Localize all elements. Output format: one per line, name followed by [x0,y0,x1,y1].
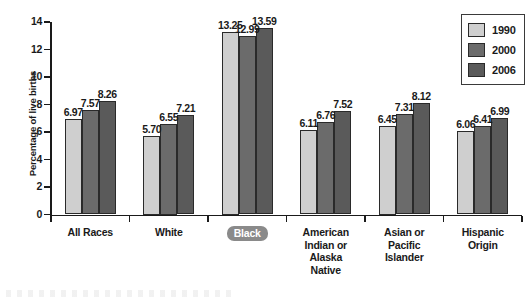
y-axis-line [50,22,52,216]
bar-2006-all-races [99,101,116,215]
legend-swatch [468,23,485,37]
category-label-line: Asian or [365,226,444,239]
category-label-all-races: All Races [51,226,130,239]
category-label-line: All Races [51,226,130,239]
y-axis-tick-label: 0 [20,208,42,220]
page-artifact-strip [6,290,236,297]
legend-item-2000: 2000 [468,41,516,58]
bar-2006-white [177,115,194,214]
bar-2006-american-indian-or-alaska-native [334,111,351,214]
bar-1990-american-indian-or-alaska-native [300,130,317,214]
y-axis-tick-label: 2 [20,180,42,192]
category-label-line: American [287,226,366,239]
y-axis-tick-label: 10 [20,70,42,82]
category-label-hispanic-origin: HispanicOrigin [444,226,523,251]
bar-value-label: 8.12 [406,90,436,102]
category-label-line: Black [227,226,268,241]
y-axis-tick [44,214,50,215]
y-axis-tick [44,76,50,77]
category-label-black: Black [208,226,287,241]
bar-2006-black [256,28,273,215]
category-label-line: Origin [444,239,523,252]
bar-2000-hispanic-origin [474,126,491,214]
x-axis-tick [521,216,522,222]
bar-value-label: 13.59 [249,15,279,27]
category-label-white: White [130,226,209,239]
bar-2000-american-indian-or-alaska-native [317,122,334,215]
legend-label: 2006 [492,64,516,76]
legend-label: 2000 [492,44,516,56]
legend-item-1990: 1990 [468,21,516,38]
category-label-line: White [130,226,209,239]
y-axis-tick [44,21,50,22]
legend-label: 1990 [492,24,516,36]
bar-1990-asian-or-pacific-islander [379,126,396,215]
bar-value-label: 7.21 [171,102,201,114]
bar-chart: Percentage of live births 02468101214 6.… [0,0,532,298]
y-axis-tick-label: 4 [20,153,42,165]
bar-1990-black [222,32,239,214]
y-axis-tick [44,49,50,50]
y-axis-tick-label: 14 [20,15,42,27]
bar-1990-all-races [65,119,82,215]
bar-2000-black [239,36,256,215]
category-label-line: Islander [365,251,444,264]
x-axis-tick [286,216,287,222]
x-axis-tick [207,216,208,222]
legend-swatch [468,63,485,77]
bar-1990-hispanic-origin [457,131,474,214]
bar-value-label: 6.99 [485,105,515,117]
x-axis-tick [129,216,130,222]
bar-value-label: 7.31 [389,101,419,113]
category-label-line: Alaska [287,251,366,264]
y-axis-tick [44,104,50,105]
y-axis-tick-label: 12 [20,43,42,55]
y-axis-tick [44,186,50,187]
y-axis-tick-label: 8 [20,98,42,110]
x-axis-tick [364,216,365,222]
bar-2000-white [160,124,177,214]
category-label-line: Indian or [287,239,366,252]
bar-value-label: 7.52 [328,98,358,110]
y-axis-tick-label: 6 [20,125,42,137]
category-label-line: Hispanic [444,226,523,239]
category-label-american-indian-or-alaska-native: AmericanIndian orAlaskaNative [287,226,366,276]
legend-swatch [468,43,485,57]
bar-1990-white [143,136,160,214]
y-axis-tick [44,159,50,160]
category-label-line: Native [287,264,366,277]
bar-2000-asian-or-pacific-islander [396,114,413,215]
legend-item-2006: 2006 [468,61,516,78]
category-label-asian-or-pacific-islander: Asian orPacificIslander [365,226,444,264]
bar-value-label: 5.70 [137,123,167,135]
bar-2006-hispanic-origin [491,118,508,214]
bar-value-label: 8.26 [92,88,122,100]
bar-value-label: 6.45 [372,113,402,125]
x-axis-tick [443,216,444,222]
bar-2000-all-races [82,110,99,214]
category-label-line: Pacific [365,239,444,252]
y-axis-tick [44,131,50,132]
legend: 199020002006 [461,14,525,85]
bar-2006-asian-or-pacific-islander [413,103,430,215]
bar-value-label: 6.76 [311,109,341,121]
x-axis-tick [50,216,51,222]
